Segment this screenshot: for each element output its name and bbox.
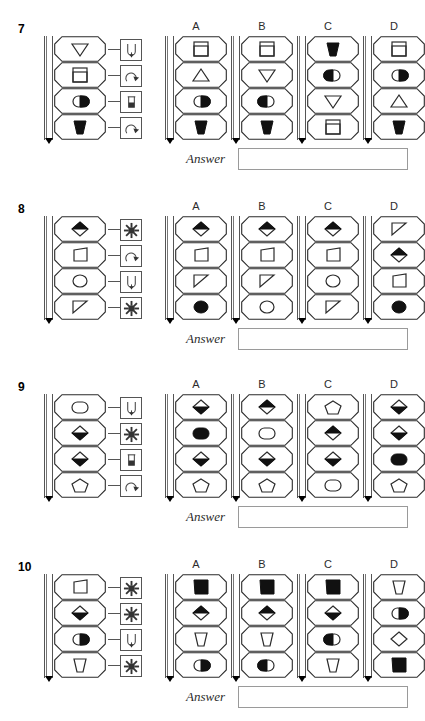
panel-rail [231, 574, 240, 678]
option-cells [373, 216, 425, 320]
figure-cell [373, 114, 425, 140]
u-magnet-icon [120, 39, 142, 61]
operator-slot [108, 574, 148, 600]
shape-diamond-half-filled [386, 423, 412, 443]
shape-triangle-up [188, 65, 214, 85]
shape-cup-trapezoid [188, 629, 214, 649]
shape-circle [320, 271, 346, 291]
shape-right-triangle [67, 297, 93, 317]
flask-tube-icon [120, 91, 142, 113]
operator-slot [108, 36, 148, 62]
option-cells [241, 394, 293, 498]
figure-cell [241, 36, 293, 62]
shape-diamond-top-filled [188, 603, 214, 623]
shape-oval-half-filled-left [254, 91, 280, 111]
answer-row: Answer [186, 686, 408, 708]
shape-rectangle-filled [386, 655, 412, 675]
figure-cell [307, 114, 359, 140]
sun-burst-icon [120, 655, 142, 677]
figure-cell [54, 114, 106, 140]
option-label-D: D [379, 20, 409, 32]
shape-diamond-top-filled [67, 219, 93, 239]
shape-pentagon [386, 475, 412, 495]
shape-triangle-down [67, 39, 93, 59]
option-label-A: A [181, 558, 211, 570]
figure-cell [175, 472, 227, 498]
shape-pentagon [67, 475, 93, 495]
operator-slot [108, 88, 148, 114]
figure-cell [175, 88, 227, 114]
figure-cell [175, 36, 227, 62]
figure-cell [241, 652, 293, 678]
answer-input[interactable] [238, 328, 408, 350]
shape-right-triangle [254, 271, 280, 291]
figure-cell [307, 36, 359, 62]
figure-cell [175, 420, 227, 446]
figure-cell [175, 574, 227, 600]
figure-cell [373, 242, 425, 268]
rail-arrow-icon [364, 676, 372, 682]
option-label-C: C [313, 20, 343, 32]
shape-diamond-half-filled [254, 449, 280, 469]
connector-line [108, 407, 120, 408]
option-cells [307, 216, 359, 320]
figure-cell [54, 88, 106, 114]
answer-input[interactable] [238, 686, 408, 708]
rail-arrow-icon [45, 318, 53, 324]
operator-slot [108, 114, 148, 140]
answer-input[interactable] [238, 506, 408, 528]
shape-cup-trapezoid [254, 629, 280, 649]
panel-rail [231, 394, 240, 498]
option-label-A: A [181, 378, 211, 390]
figure-cell [373, 268, 425, 294]
shape-cup-trapezoid [320, 655, 346, 675]
panel-rail [44, 36, 53, 140]
panel-rail [44, 216, 53, 320]
shape-triangle-up [386, 91, 412, 111]
shape-diamond-half-filled [320, 603, 346, 623]
connector-line [108, 101, 120, 102]
shape-diamond-top-filled [188, 219, 214, 239]
figure-cell [54, 394, 106, 420]
shape-diamond-top-filled [320, 219, 346, 239]
shape-square-in-square [188, 39, 214, 59]
figure-cell [241, 242, 293, 268]
figure-cell [373, 446, 425, 472]
figure-cell [241, 216, 293, 242]
shape-quadrilateral [320, 245, 346, 265]
connector-line [108, 587, 120, 588]
rail-arrow-icon [232, 676, 240, 682]
shape-diamond-top-filled [254, 603, 280, 623]
connector-line [108, 665, 120, 666]
connector-line [108, 127, 120, 128]
stem-cells [54, 574, 106, 678]
connector-line [108, 255, 120, 256]
panel-rail [231, 216, 240, 320]
operator-slot [108, 268, 148, 294]
option-cells [307, 394, 359, 498]
figure-cell [241, 114, 293, 140]
rail-arrow-icon [45, 138, 53, 144]
figure-cell [307, 242, 359, 268]
shape-diamond-top-filled [386, 245, 412, 265]
rail-arrow-icon [298, 676, 306, 682]
rail-arrow-icon [298, 318, 306, 324]
answer-row: Answer [186, 148, 408, 170]
figure-cell [241, 88, 293, 114]
shape-right-triangle [188, 271, 214, 291]
figure-cell [307, 600, 359, 626]
figure-cell [175, 268, 227, 294]
connector-line [108, 281, 120, 282]
option-label-B: B [247, 20, 277, 32]
figure-cell [307, 472, 359, 498]
figure-cell [307, 294, 359, 320]
panel-rail [165, 574, 174, 678]
operator-slot [108, 652, 148, 678]
rotate-arrow-icon [120, 117, 142, 139]
rail-arrow-icon [232, 318, 240, 324]
figure-cell [307, 574, 359, 600]
figure-cell [175, 216, 227, 242]
shape-diamond-top-filled [254, 397, 280, 417]
answer-input[interactable] [238, 148, 408, 170]
stem-cells [54, 216, 106, 320]
